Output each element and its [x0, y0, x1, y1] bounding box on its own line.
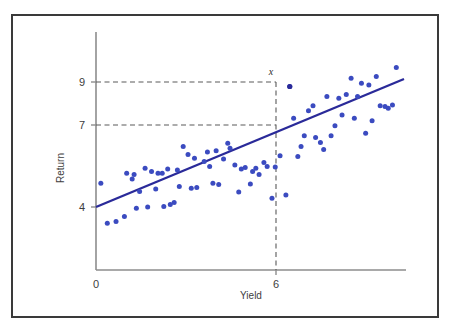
scatter-point — [306, 108, 311, 113]
scatter-point — [394, 65, 399, 70]
y-tick-label-7: 7 — [79, 119, 85, 131]
scatter-point — [313, 135, 318, 140]
scatter-point — [232, 163, 237, 168]
scatter-point — [132, 172, 137, 177]
scatter-point — [291, 116, 296, 121]
scatter-point — [248, 182, 253, 187]
scatter-plot: 9 7 4 0 6 Return Yield x — [0, 0, 458, 332]
scatter-point — [214, 148, 219, 153]
scatter-point — [261, 160, 266, 165]
scatter-point — [269, 196, 274, 201]
scatter-point — [321, 147, 326, 152]
scatter-point — [149, 169, 154, 174]
scatter-point — [221, 157, 226, 162]
scatter-point — [318, 140, 323, 145]
scatter-point — [210, 181, 215, 186]
scatter-point — [105, 221, 110, 226]
guide-lines — [96, 82, 276, 270]
scatter-point — [340, 113, 345, 118]
y-tick-label-9: 9 — [79, 76, 85, 88]
scatter-point — [207, 164, 212, 169]
scatter-point — [165, 167, 170, 172]
scatter-point — [359, 81, 364, 86]
scatter-point — [161, 204, 166, 209]
scatter-point — [278, 153, 283, 158]
scatter-point — [228, 146, 233, 151]
scatter-point — [299, 144, 304, 149]
scatter-point — [160, 171, 165, 176]
annotation-label-x: x — [268, 66, 274, 77]
scatter-point — [189, 186, 194, 191]
scatter-point — [134, 206, 139, 211]
scatter-point — [366, 83, 371, 88]
scatter-point — [374, 74, 379, 79]
scatter-point — [295, 154, 300, 159]
scatter-point — [177, 184, 182, 189]
scatter-point — [355, 94, 360, 99]
scatter-point — [390, 103, 395, 108]
y-axis-title: Return — [55, 153, 66, 183]
scatter-point — [344, 92, 349, 97]
scatter-point — [324, 94, 329, 99]
scatter-point — [370, 118, 375, 123]
scatter-point — [225, 141, 230, 146]
scatter-point — [98, 181, 103, 186]
scatter-point — [253, 166, 258, 171]
scatter-point — [243, 165, 248, 170]
scatter-point — [143, 166, 148, 171]
figure-root: 9 7 4 0 6 Return Yield x — [0, 0, 458, 332]
scatter-point — [137, 189, 142, 194]
scatter-point — [122, 214, 127, 219]
scatter-point — [236, 190, 241, 195]
scatter-point — [175, 168, 180, 173]
scatter-point — [336, 96, 341, 101]
scatter-point — [216, 182, 221, 187]
x-axis-title: Yield — [240, 290, 262, 301]
annotation-point-x — [287, 84, 292, 89]
scatter-point — [124, 171, 129, 176]
scatter-point — [186, 152, 191, 157]
scatter-point — [302, 133, 307, 138]
scatter-point — [265, 164, 270, 169]
scatter-point — [352, 116, 357, 121]
scatter-point — [378, 103, 383, 108]
scatter-point — [349, 76, 354, 81]
scatter-point — [114, 219, 119, 224]
scatter-point-group — [98, 65, 398, 226]
scatter-point — [202, 159, 207, 164]
scatter-point — [172, 200, 177, 205]
scatter-point — [145, 205, 150, 210]
scatter-point — [329, 133, 334, 138]
scatter-point — [181, 144, 186, 149]
scatter-point — [194, 185, 199, 190]
scatter-point — [153, 187, 158, 192]
scatter-point — [205, 150, 210, 155]
scatter-point — [332, 123, 337, 128]
x-tick-label-6: 6 — [273, 278, 279, 290]
scatter-point — [257, 172, 262, 177]
scatter-point — [386, 106, 391, 111]
scatter-point — [273, 165, 278, 170]
scatter-point — [311, 103, 316, 108]
x-tick-label-0: 0 — [93, 278, 99, 290]
y-tick-label-4: 4 — [79, 201, 85, 213]
scatter-point — [363, 131, 368, 136]
scatter-point — [130, 177, 135, 182]
scatter-point — [192, 156, 197, 161]
scatter-point — [283, 193, 288, 198]
